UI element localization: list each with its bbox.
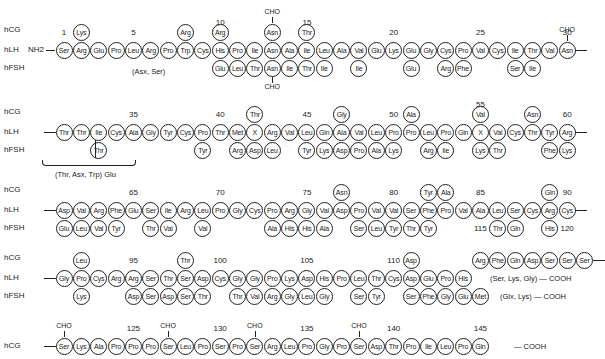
residue: Thr (368, 270, 385, 287)
residue: Phe (108, 202, 125, 219)
label-hlh: hLH (4, 127, 19, 136)
residue: Arg (541, 202, 558, 219)
residue-hfsh: Lys (73, 288, 90, 305)
residue-hfsh: Gly (437, 288, 454, 305)
residue: Asn (264, 42, 281, 59)
residue: Thr (56, 124, 73, 141)
residue: Thr (524, 42, 541, 59)
cho-label: CHO (351, 322, 367, 329)
residue: Cys (177, 124, 194, 141)
residue: Pro (333, 270, 350, 287)
label-hlh: hLH (4, 205, 19, 214)
sequence-note: — COOH (514, 342, 546, 351)
residue: Glu (368, 42, 385, 59)
residue: Arg (281, 202, 298, 219)
sequence-note: (Ser, Lys, Gly) — COOH (490, 274, 571, 283)
residue: Arg (90, 202, 107, 219)
residue-number: 35 (129, 110, 138, 119)
residue-hcg: Tyr (420, 184, 437, 201)
cho-link (64, 331, 65, 337)
residue-hfsh: Thr (489, 220, 506, 237)
residue: Pro (212, 202, 229, 219)
residue-hfsh: Thr (142, 220, 159, 237)
residue: Ala (125, 124, 142, 141)
residue-hfsh: Lys (385, 142, 402, 159)
residue: His (455, 270, 472, 287)
residue: Ala (333, 42, 350, 59)
residue: Arg (264, 124, 281, 141)
cho-link (272, 17, 273, 23)
residue-hcg: Thr (298, 24, 315, 41)
residue: Pro (437, 270, 454, 287)
residue: Leu (281, 338, 298, 355)
residue-number: 65 (129, 188, 138, 197)
residue: Ser (507, 202, 524, 219)
bond (44, 346, 56, 347)
residue: Ile (246, 42, 263, 59)
residue: Ser (160, 338, 177, 355)
residue-hfsh: Leu (298, 288, 315, 305)
residue: Val (489, 124, 506, 141)
residue: Ala (90, 338, 107, 355)
residue: Val (316, 202, 333, 219)
residue: Pro (455, 42, 472, 59)
residue-hcg: Gly (333, 106, 350, 123)
residue-hfsh: Phe (455, 60, 472, 77)
residue: Gly (316, 338, 333, 355)
label-hcg: hCG (4, 185, 20, 194)
residue-hfsh: Ile (316, 60, 333, 77)
residue: Glu (403, 42, 420, 59)
residue: Leu (125, 42, 142, 59)
cho-label: CHO (160, 322, 176, 329)
residue: Cys (194, 42, 211, 59)
residue: Thr (385, 338, 402, 355)
residue: Ser (246, 338, 263, 355)
residue-hfsh: Thr (246, 60, 263, 77)
residue-hfsh: Leu (73, 220, 90, 237)
residue-hcg: Ser (576, 252, 593, 269)
residue-hfsh: Thr (403, 220, 420, 237)
residue: Ser (350, 338, 367, 355)
sequence-note: (Asx, Ser) (132, 67, 165, 76)
residue: Trp (177, 42, 194, 59)
bond (44, 278, 56, 279)
residue: Arg (108, 270, 125, 287)
residue-hfsh: Leu (368, 220, 385, 237)
residue-hfsh: Ala (264, 220, 281, 237)
residue: Ile (420, 338, 437, 355)
residue-number: 135 (300, 324, 313, 333)
residue: Cys (437, 42, 454, 59)
residue-hcg: Arg (212, 24, 229, 41)
residue-hfsh: Leu (229, 60, 246, 77)
residue-hfsh: His (298, 220, 315, 237)
residue-hcg: Thr (177, 252, 194, 269)
residue: Gly (298, 202, 315, 219)
cho-label: CHO (264, 83, 280, 90)
residue-hfsh: Tyr (385, 220, 402, 237)
residue: Thr (212, 124, 229, 141)
residue: Thr (160, 270, 177, 287)
residue: Ile (90, 124, 107, 141)
residue: X (472, 124, 489, 141)
residue: Glu (90, 42, 107, 59)
residue: Pro (264, 202, 281, 219)
residue-hcg: Asp (524, 252, 541, 269)
cho-link (567, 35, 568, 41)
residue-number: 90 (563, 188, 572, 197)
residue: Pro (194, 338, 211, 355)
residue: Leu (489, 202, 506, 219)
residue: Pro (455, 338, 472, 355)
residue-hcg: Asn (333, 184, 350, 201)
residue-number: 120 (560, 224, 573, 233)
residue-hfsh: Tyr (194, 142, 211, 159)
bond (575, 50, 587, 51)
residue: Pro (437, 124, 454, 141)
residue-hfsh: Ser (177, 288, 194, 305)
residue-number: 40 (216, 110, 225, 119)
residue: Ser (56, 338, 73, 355)
residue: Met (229, 124, 246, 141)
residue-hfsh: Asp (125, 288, 142, 305)
residue: Asp (194, 270, 211, 287)
residue-hcg: Ser (541, 252, 558, 269)
residue-number: 75 (302, 188, 311, 197)
